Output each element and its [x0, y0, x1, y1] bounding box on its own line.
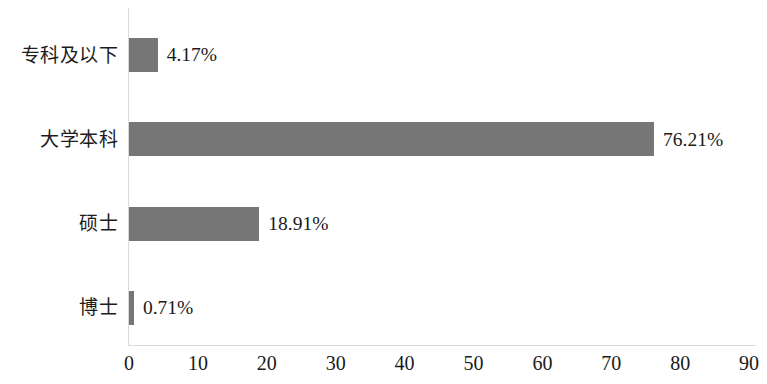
x-axis-tick-label: 20	[237, 350, 297, 376]
x-axis-tick-label: 40	[375, 350, 435, 376]
bar-value-label: 4.17%	[167, 45, 217, 65]
category-label: 博士	[0, 298, 118, 317]
chart-row: 博士 0.71%	[0, 266, 767, 350]
bar-value-label: 0.71%	[143, 298, 193, 318]
x-axis-tick-labels: 0102030405060708090	[0, 350, 767, 384]
x-axis-tick-label: 90	[719, 350, 767, 376]
bar-value-label: 76.21%	[663, 130, 723, 150]
bar[interactable]	[129, 38, 158, 72]
chart-row: 大学本科 76.21%	[0, 97, 767, 181]
category-label: 专科及以下	[0, 46, 118, 65]
bar-chart: 专科及以下 4.17% 大学本科 76.21% 硕士 18.91% 博士 0.7…	[0, 0, 767, 384]
bar-group: 4.17%	[129, 38, 217, 72]
bar-value-label: 18.91%	[268, 214, 328, 234]
x-axis-tick-label: 80	[650, 350, 710, 376]
x-axis-tick-label: 60	[512, 350, 572, 376]
bar[interactable]	[129, 291, 134, 325]
x-axis-tick-label: 50	[444, 350, 504, 376]
chart-row: 专科及以下 4.17%	[0, 13, 767, 97]
bar[interactable]	[129, 122, 654, 156]
x-axis-tick-label: 0	[99, 350, 159, 376]
category-label: 硕士	[0, 214, 118, 233]
bar-group: 18.91%	[129, 207, 328, 241]
x-axis-tick-label: 10	[168, 350, 228, 376]
bar[interactable]	[129, 207, 259, 241]
x-axis-tick-label: 70	[581, 350, 641, 376]
x-axis-tick-label: 30	[306, 350, 366, 376]
bar-group: 76.21%	[129, 122, 723, 156]
bar-group: 0.71%	[129, 291, 193, 325]
chart-row: 硕士 18.91%	[0, 182, 767, 266]
category-label: 大学本科	[0, 130, 118, 149]
